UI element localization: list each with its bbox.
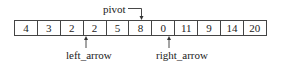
- array-cell: 5: [107, 21, 130, 35]
- array-cell: 20: [244, 21, 267, 35]
- left-arrow-label: left_arrow: [66, 50, 112, 61]
- array-cell: 11: [175, 21, 198, 35]
- pivot-arrow-icon: [127, 0, 147, 22]
- array-cell: 8: [129, 21, 152, 35]
- array-cell: 2: [61, 21, 84, 35]
- array-cell: 3: [38, 21, 61, 35]
- array: 4 3 2 2 5 8 0 11 9 14 20: [14, 20, 267, 36]
- right-arrow-pointer-icon: [164, 35, 174, 49]
- pivot-label: pivot: [103, 4, 126, 15]
- left-arrow-pointer-icon: [81, 35, 91, 49]
- right-arrow-label: right_arrow: [156, 50, 208, 61]
- array-cell: 14: [221, 21, 244, 35]
- array-cell: 4: [15, 21, 38, 35]
- array-cell: 9: [198, 21, 221, 35]
- array-cell: 0: [152, 21, 175, 35]
- array-cell: 2: [84, 21, 107, 35]
